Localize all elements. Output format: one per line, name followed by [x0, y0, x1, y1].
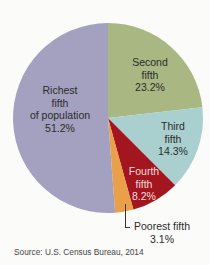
label-poorest: Poorest fifth 3.1%	[134, 220, 190, 245]
poorest-leader-line	[125, 204, 126, 228]
label-fourth: Fourth fifth 8.2%	[129, 165, 159, 203]
label-second: Second fifth 23.2%	[132, 56, 168, 94]
label-third: Third fifth 14.3%	[158, 120, 188, 158]
poorest-leader-tick	[125, 227, 130, 228]
label-richest: Richest fifth of population 51.2%	[30, 84, 90, 134]
source-note: Source: U.S. Census Bureau, 2014	[14, 247, 144, 257]
